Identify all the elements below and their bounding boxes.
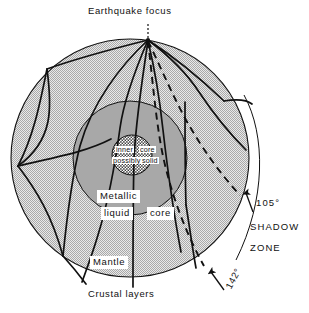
- outer-core-label-liquid: liquid: [101, 207, 133, 220]
- focus-point: [146, 38, 150, 42]
- earthquake-focus-label: Earthquake focus: [88, 6, 172, 16]
- angle-105-label: 105°: [256, 198, 280, 208]
- inner-core-label-4: solid: [141, 157, 159, 164]
- crustal-layers-label: Crustal layers: [88, 289, 154, 299]
- angle-142-arrow: [211, 272, 224, 290]
- shadow-zone-label-1: SHADOW: [250, 222, 299, 232]
- mantle-label: Mantle: [90, 256, 128, 269]
- inner-core-label-2: core: [139, 146, 156, 153]
- outer-core-label-core: core: [147, 207, 174, 220]
- angle-105-arrow: [246, 193, 253, 212]
- seismic-cross-section-figure: Earthquake focus inner core possibly sol…: [0, 0, 309, 313]
- shadow-zone-label-2: ZONE: [250, 243, 281, 253]
- inner-core-label-1: inner: [115, 146, 134, 153]
- outer-core-label-metallic: Metallic: [97, 190, 140, 203]
- inner-core-label-3: possibly: [112, 157, 142, 164]
